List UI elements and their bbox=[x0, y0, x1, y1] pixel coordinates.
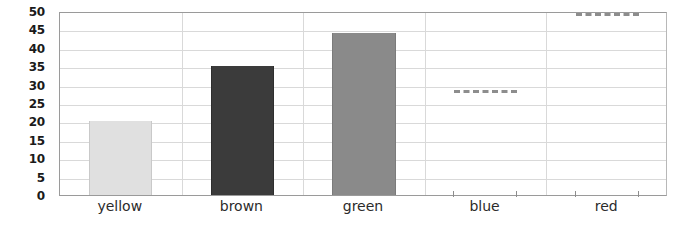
y-tick-label: 35 bbox=[29, 61, 45, 73]
y-tick-label: 15 bbox=[29, 135, 45, 147]
bar-brown bbox=[211, 66, 274, 195]
y-axis-tick-labels: 05101520253035404550 bbox=[0, 0, 55, 229]
x-tick-mark bbox=[575, 191, 576, 197]
y-tick-label: 30 bbox=[29, 80, 45, 92]
x-label-green: green bbox=[343, 198, 383, 214]
x-label-yellow: yellow bbox=[97, 198, 142, 214]
x-gridline bbox=[182, 13, 183, 195]
y-tick-label: 25 bbox=[29, 98, 45, 110]
x-gridline bbox=[425, 13, 426, 195]
bar-green bbox=[332, 33, 395, 195]
plot-area bbox=[59, 12, 667, 196]
x-label-brown: brown bbox=[220, 198, 263, 214]
y-tick-label: 40 bbox=[29, 43, 45, 55]
y-tick-label: 5 bbox=[37, 172, 45, 184]
x-label-blue: blue bbox=[469, 198, 499, 214]
x-tick-mark bbox=[453, 191, 454, 197]
level-marker-red bbox=[576, 13, 639, 16]
y-tick-label: 0 bbox=[37, 190, 45, 202]
y-tick-label: 45 bbox=[29, 24, 45, 36]
y-tick-label: 50 bbox=[29, 6, 45, 18]
y-tick-label: 20 bbox=[29, 116, 45, 128]
bar-chart: 05101520253035404550 yellowbrowngreenblu… bbox=[0, 0, 675, 229]
x-tick-mark bbox=[516, 191, 517, 197]
level-marker-blue bbox=[454, 90, 517, 93]
x-gridline bbox=[546, 13, 547, 195]
x-label-red: red bbox=[595, 198, 618, 214]
x-axis-category-labels: yellowbrowngreenbluered bbox=[59, 198, 667, 222]
x-tick-mark bbox=[638, 191, 639, 197]
x-gridline bbox=[303, 13, 304, 195]
y-tick-label: 10 bbox=[29, 153, 45, 165]
bar-yellow bbox=[89, 121, 152, 195]
